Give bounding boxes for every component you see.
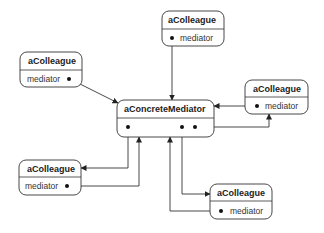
colleague-box-bottom-left: aColleague mediator xyxy=(19,160,81,195)
colleague-attribute: mediator xyxy=(230,206,263,216)
reference-dot-icon xyxy=(193,125,197,129)
reference-dot-icon xyxy=(255,104,259,108)
colleague-box-left-top: aColleague mediator xyxy=(20,52,82,87)
colleague-box-top: aColleague mediator xyxy=(162,11,224,46)
reference-dot-icon xyxy=(170,36,174,40)
colleague-attribute: mediator xyxy=(25,181,58,191)
colleague-title: aColleague xyxy=(27,164,75,174)
mediator-object-diagram: aConcreteMediator aColleague mediator aC… xyxy=(0,0,324,233)
colleague-box-right: aColleague mediator xyxy=(245,80,308,114)
colleague-attribute: mediator xyxy=(180,33,213,43)
reference-dot-icon xyxy=(65,184,69,188)
colleague-title: aColleague xyxy=(253,84,301,94)
colleague-title: aColleague xyxy=(28,56,76,66)
colleague-title: aColleague xyxy=(217,188,265,198)
colleague-attribute: mediator xyxy=(27,74,60,84)
reference-dot-icon xyxy=(67,77,71,81)
colleague-title: aColleague xyxy=(168,15,216,25)
mediator-title: aConcreteMediator xyxy=(124,104,206,114)
reference-dot-icon xyxy=(219,209,223,213)
concrete-mediator-box: aConcreteMediator xyxy=(117,100,214,137)
reference-dot-icon xyxy=(180,125,184,129)
colleague-attribute: mediator xyxy=(265,101,298,111)
colleague-box-bottom-right: aColleague mediator xyxy=(210,184,272,219)
reference-dot-icon xyxy=(126,125,130,129)
